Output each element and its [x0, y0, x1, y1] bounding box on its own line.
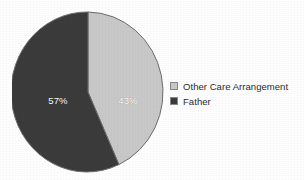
legend-swatch-icon-father	[170, 97, 178, 105]
legend-item-other-care-arrangement[interactable]: Other Care Arrangement	[170, 79, 302, 93]
pie-chart-svg	[12, 11, 164, 173]
pie-slice-label-father: 57%	[40, 95, 76, 106]
legend-swatch-icon-other-care-arrangement	[170, 82, 178, 90]
legend-item-father[interactable]: Father	[170, 94, 302, 108]
chart-legend: Other Care Arrangement Father	[170, 79, 302, 109]
pie-slice-label-other-care-arrangement: 43%	[110, 95, 146, 106]
pie-chart-figure: 57% 43% Other Care Arrangement Father	[0, 0, 304, 180]
pie-chart-plot-area: 57% 43%	[12, 11, 164, 173]
legend-label-father: Father	[183, 96, 211, 107]
legend-label-other-care-arrangement: Other Care Arrangement	[183, 81, 288, 92]
